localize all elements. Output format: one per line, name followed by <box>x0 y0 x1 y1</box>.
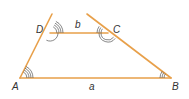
angle-C-left-arcs <box>97 26 102 33</box>
vertex-label-A: A <box>11 81 19 92</box>
vertex-label-B: B <box>172 81 179 92</box>
vertex-label-D: D <box>36 24 43 35</box>
leg-BC-extended <box>87 14 171 78</box>
side-label-b: b <box>75 19 81 30</box>
trapezoid-diagram: A B C D b a <box>0 0 189 99</box>
angle-D-upper-arcs <box>53 21 63 33</box>
angle-D-lower-arc <box>46 33 58 41</box>
vertex-label-C: C <box>113 24 121 35</box>
diagram-svg: A B C D b a <box>0 0 189 99</box>
side-label-a: a <box>89 81 95 92</box>
